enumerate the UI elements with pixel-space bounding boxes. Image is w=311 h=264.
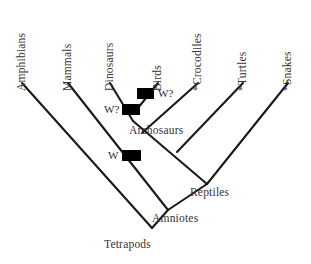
event-label-amniotes: W	[108, 149, 118, 161]
event-marker-archosaurs-rect	[122, 104, 140, 115]
event-label-archosaurs: W?	[104, 103, 119, 115]
branch-snakes	[207, 83, 288, 184]
tip-label-crocodiles: *Crocodiles	[191, 33, 203, 91]
tip-label-mammals: Mammals	[61, 44, 73, 91]
tip-label-dinosaurs: Dinosaurs	[103, 43, 115, 91]
node-label-amniotes: Amniotes	[152, 212, 198, 224]
tip-label-amphibians: Amphibians	[15, 33, 27, 91]
event-marker-amniotes-rect	[122, 150, 141, 161]
event-label-birds: W?	[158, 87, 173, 99]
node-label-archosaurs: Archosaurs	[129, 124, 183, 136]
tip-label-snakes: *Snakes	[281, 51, 293, 91]
node-label-tetrapods: Tetrapods	[104, 238, 151, 250]
cladogram-figure: Amphibians Mammals Dinosaurs Birds *Croc…	[0, 0, 311, 264]
node-label-reptiles: Reptiles	[190, 186, 229, 198]
tip-label-turtles: *Turtles	[236, 51, 248, 91]
